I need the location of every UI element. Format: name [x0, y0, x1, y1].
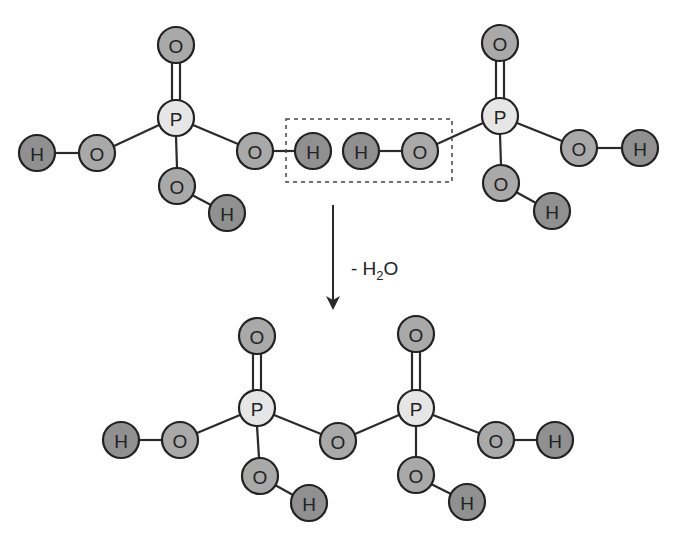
hydrogen-atom-label: H	[545, 202, 559, 223]
phosphorus-atom-label: P	[410, 399, 423, 420]
phosphorus-atom: P	[482, 98, 518, 134]
oxygen-atom: O	[162, 422, 198, 458]
oxygen-atom: O	[239, 318, 275, 354]
oxygen-atom: O	[483, 165, 519, 201]
phosphorus-atom: P	[398, 390, 434, 426]
phosphorus-atom: P	[239, 390, 275, 426]
oxygen-atom-label: O	[493, 34, 508, 55]
bond	[433, 415, 479, 433]
hydrogen-atom: H	[343, 133, 379, 169]
bond	[192, 195, 211, 205]
oxygen-atom: O	[398, 316, 434, 352]
bond	[437, 123, 483, 144]
phosphorus-atom-label: P	[251, 399, 264, 420]
oxygen-atom-label: O	[169, 36, 184, 57]
hydrogen-atom: H	[19, 135, 55, 171]
hydrogen-atom-label: H	[354, 142, 368, 163]
phosphorus-atom: P	[158, 100, 194, 136]
water-removed-label: - H2O	[351, 258, 398, 283]
bond	[516, 192, 536, 203]
hydrogen-atom: H	[537, 422, 573, 458]
hydrogen-atom: H	[622, 130, 658, 166]
atoms-layer: POOHOHOHPOOHOHOHPOOHOHOPOOHOH	[19, 25, 658, 521]
oxygen-atom-label: O	[572, 139, 587, 160]
bond	[517, 123, 562, 141]
phosphorus-atom-label: P	[494, 107, 507, 128]
oxygen-atom-label: O	[253, 467, 268, 488]
label-subscript: 2	[376, 268, 383, 283]
oxygen-atom-label: O	[494, 174, 509, 195]
hydrogen-atom: H	[449, 484, 485, 520]
oxygen-atom: O	[158, 27, 194, 63]
hydrogen-atom: H	[291, 485, 327, 521]
oxygen-atom-label: O	[409, 466, 424, 487]
oxygen-atom-label: O	[413, 142, 428, 163]
pyrophosphoric-acid: POOHOHOPOOHOH	[103, 316, 573, 521]
bond	[193, 125, 238, 144]
bond	[431, 484, 451, 494]
oxygen-atom: O	[398, 457, 434, 493]
hydrogen-atom: H	[209, 195, 245, 231]
hydrogen-atom-label: H	[302, 494, 316, 515]
hydrogen-atom-label: H	[30, 144, 44, 165]
phosphoric-acid-1: POOHOHOH	[19, 27, 331, 231]
oxygen-atom: O	[478, 422, 514, 458]
bond	[257, 426, 259, 458]
hydrogen-atom-label: H	[548, 431, 562, 452]
oxygen-atom-label: O	[90, 144, 105, 165]
bond	[275, 485, 293, 495]
oxygen-atom-label: O	[173, 431, 188, 452]
oxygen-atom-label: O	[331, 432, 346, 453]
hydrogen-atom-label: H	[306, 142, 320, 163]
bond	[500, 134, 501, 165]
hydrogen-atom: H	[103, 422, 139, 458]
bond	[176, 136, 177, 168]
hydrogen-atom: H	[295, 133, 331, 169]
oxygen-atom: O	[159, 168, 195, 204]
oxygen-atom-label: O	[409, 325, 424, 346]
oxygen-atom: O	[561, 130, 597, 166]
oxygen-atom: O	[79, 135, 115, 171]
hydrogen-atom-label: H	[460, 493, 474, 514]
phosphoric-acid-2: POOHOHOH	[343, 25, 658, 229]
oxygen-atom: O	[320, 423, 356, 459]
label-suffix: O	[384, 258, 399, 279]
reaction-arrow	[326, 205, 340, 310]
bond	[274, 415, 321, 434]
oxygen-atom: O	[402, 133, 438, 169]
hydrogen-atom: H	[534, 193, 570, 229]
oxygen-atom: O	[242, 458, 278, 494]
oxygen-atom-label: O	[489, 431, 504, 452]
bond	[197, 415, 240, 433]
hydrogen-atom-label: H	[220, 204, 234, 225]
bond	[114, 125, 159, 146]
oxygen-atom: O	[237, 133, 273, 169]
hydrogen-atom-label: H	[114, 431, 128, 452]
bond	[355, 415, 399, 434]
phosphorus-atom-label: P	[170, 109, 183, 130]
oxygen-atom-label: O	[248, 142, 263, 163]
condensation-diagram: POOHOHOHPOOHOHOHPOOHOHOPOOHOH	[0, 0, 673, 540]
oxygen-atom-label: O	[170, 177, 185, 198]
hydrogen-atom-label: H	[633, 139, 647, 160]
oxygen-atom-label: O	[250, 327, 265, 348]
oxygen-atom: O	[482, 25, 518, 61]
label-prefix: - H	[351, 258, 376, 279]
